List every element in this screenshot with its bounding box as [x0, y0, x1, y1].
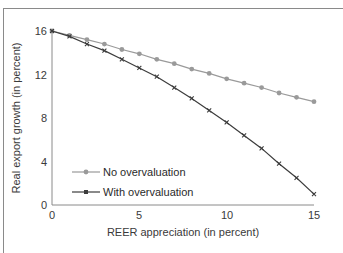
y-tick-label: 0	[41, 199, 47, 211]
circle-marker-icon	[277, 91, 282, 96]
x-tick-label: 5	[136, 209, 142, 221]
circle-marker-icon	[312, 99, 317, 104]
x-marker-icon	[277, 162, 281, 166]
circle-marker-icon	[172, 61, 177, 66]
x-marker-icon	[120, 57, 124, 61]
legend: No overvaluation With overvaluation	[72, 166, 194, 198]
circle-marker-icon	[259, 85, 264, 90]
x-marker-icon	[295, 176, 299, 180]
x-marker-icon	[242, 133, 246, 137]
x-tick-label: 0	[49, 209, 55, 221]
x-tick-label: 10	[221, 209, 233, 221]
circle-marker-icon	[189, 67, 194, 72]
y-tick-label: 8	[41, 112, 47, 124]
legend-item-no-overvaluation: No overvaluation	[72, 166, 186, 178]
legend-label: No overvaluation	[103, 166, 186, 178]
circle-marker-icon	[119, 47, 124, 52]
x-axis-label: REER appreciation (in percent)	[107, 226, 259, 238]
square-marker-icon	[84, 190, 88, 194]
circle-marker-icon	[84, 170, 89, 175]
circle-marker-icon	[85, 37, 90, 42]
x-marker-icon	[260, 146, 264, 150]
circle-marker-icon	[154, 57, 159, 62]
circle-marker-icon	[102, 42, 107, 47]
x-marker-icon	[172, 86, 176, 90]
circle-marker-icon	[294, 95, 299, 100]
circle-marker-icon	[137, 51, 142, 56]
x-marker-icon	[190, 96, 194, 100]
y-tick-label: 4	[41, 156, 47, 168]
x-marker-icon	[312, 192, 316, 196]
legend-label: With overvaluation	[103, 186, 194, 198]
x-marker-icon	[207, 108, 211, 112]
y-tick-label: 12	[35, 69, 47, 81]
x-tick-label: 15	[308, 209, 320, 221]
y-axis-label: Real export growth (in percent)	[10, 42, 22, 193]
circle-marker-icon	[242, 81, 247, 86]
y-tick-label: 16	[35, 25, 47, 37]
x-marker-icon	[225, 120, 229, 124]
x-marker-icon	[155, 75, 159, 79]
circle-marker-icon	[207, 71, 212, 76]
legend-item-with-overvaluation: With overvaluation	[72, 186, 194, 198]
circle-marker-icon	[224, 76, 229, 81]
